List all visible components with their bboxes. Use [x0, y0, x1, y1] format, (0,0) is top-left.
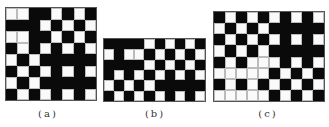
weave-grid-c [213, 11, 325, 102]
cell-a-r6-c1 [6, 66, 17, 78]
cell-b-r3-c4 [134, 60, 144, 70]
cell-b-r5-c5 [144, 80, 154, 90]
cell-c-r2-c9 [302, 23, 313, 34]
cell-c-r3-c10 [313, 34, 324, 45]
cell-c-r2-c4 [247, 23, 258, 34]
cell-b-r6-c9 [185, 91, 195, 101]
cell-a-r2-c2 [17, 20, 28, 32]
cell-b-r2-c7 [165, 49, 175, 59]
weave-grid-a [5, 7, 97, 101]
cell-b-r3-c2 [114, 60, 124, 70]
cell-b-r3-c6 [155, 60, 165, 70]
cell-c-r2-c7 [280, 23, 291, 34]
cell-a-r2-c8 [85, 20, 96, 32]
cell-a-r7-c3 [29, 77, 40, 89]
cell-a-r3-c7 [74, 31, 85, 43]
cell-a-r8-c2 [17, 89, 28, 101]
cell-a-r1-c1 [6, 8, 17, 20]
cell-b-r3-c7 [165, 60, 175, 70]
cell-b-r2-c3 [124, 49, 134, 59]
cell-b-r5-c9 [185, 80, 195, 90]
cell-c-r4-c1 [214, 45, 225, 56]
cell-c-r3-c9 [302, 34, 313, 45]
cell-b-r6-c1 [104, 91, 114, 101]
cell-b-r5-c7 [165, 80, 175, 90]
cell-a-r3-c1 [6, 31, 17, 43]
weave-grid-b [103, 38, 206, 102]
cell-b-r6-c4 [134, 91, 144, 101]
cell-b-r2-c6 [155, 49, 165, 59]
cell-c-r5-c7 [280, 57, 291, 68]
cell-b-r4-c5 [144, 70, 154, 80]
cell-a-r3-c2 [17, 31, 28, 43]
cell-b-r2-c5 [144, 49, 154, 59]
cell-c-r6-c7 [280, 68, 291, 79]
cell-b-r1-c4 [134, 39, 144, 49]
cell-c-r3-c4 [247, 34, 258, 45]
cell-a-r8-c5 [51, 89, 62, 101]
cell-a-r7-c6 [62, 77, 73, 89]
cell-a-r5-c8 [85, 54, 96, 66]
cell-c-r5-c1 [214, 57, 225, 68]
cell-c-r5-c8 [291, 57, 302, 68]
cell-c-r4-c8 [291, 45, 302, 56]
cell-a-r5-c5 [51, 54, 62, 66]
cell-c-r3-c6 [269, 34, 280, 45]
cell-c-r5-c2 [225, 57, 236, 68]
cell-a-r1-c8 [85, 8, 96, 20]
cell-b-r6-c7 [165, 91, 175, 101]
cell-a-r2-c4 [40, 20, 51, 32]
cell-a-r1-c3 [29, 8, 40, 20]
cell-a-r3-c8 [85, 31, 96, 43]
cell-a-r5-c2 [17, 54, 28, 66]
cell-c-r4-c9 [302, 45, 313, 56]
cell-b-r2-c1 [104, 49, 114, 59]
cell-b-r6-c6 [155, 91, 165, 101]
cell-a-r4-c7 [74, 43, 85, 55]
cell-c-r4-c6 [269, 45, 280, 56]
caption-b: (b) [135, 108, 175, 119]
cell-b-r4-c7 [165, 70, 175, 80]
cell-a-r6-c5 [51, 66, 62, 78]
cell-c-r8-c8 [291, 90, 302, 101]
cell-b-r4-c3 [124, 70, 134, 80]
cell-c-r8-c10 [313, 90, 324, 101]
cell-c-r7-c6 [269, 79, 280, 90]
cell-a-r4-c1 [6, 43, 17, 55]
cell-b-r5-c8 [175, 80, 185, 90]
cell-c-r6-c6 [269, 68, 280, 79]
cell-a-r8-c4 [40, 89, 51, 101]
cell-a-r1-c2 [17, 8, 28, 20]
cell-a-r5-c1 [6, 54, 17, 66]
cell-a-r8-c1 [6, 89, 17, 101]
cell-c-r3-c3 [236, 34, 247, 45]
cell-a-r5-c3 [29, 54, 40, 66]
cell-c-r8-c9 [302, 90, 313, 101]
cell-c-r1-c10 [313, 12, 324, 23]
cell-a-r4-c8 [85, 43, 96, 55]
cell-c-r1-c5 [258, 12, 269, 23]
cell-c-r7-c5 [258, 79, 269, 90]
cell-b-r1-c2 [114, 39, 124, 49]
cell-c-r8-c4 [247, 90, 258, 101]
cell-a-r8-c6 [62, 89, 73, 101]
cell-b-r5-c3 [124, 80, 134, 90]
cell-a-r1-c6 [62, 8, 73, 20]
cell-b-r1-c9 [185, 39, 195, 49]
cell-b-r1-c1 [104, 39, 114, 49]
cell-c-r4-c3 [236, 45, 247, 56]
cell-c-r1-c2 [225, 12, 236, 23]
cell-c-r5-c4 [247, 57, 258, 68]
cell-c-r1-c3 [236, 12, 247, 23]
cell-a-r6-c4 [40, 66, 51, 78]
cell-c-r6-c8 [291, 68, 302, 79]
cell-b-r4-c4 [134, 70, 144, 80]
cell-c-r6-c4 [247, 68, 258, 79]
cell-b-r1-c10 [195, 39, 205, 49]
cell-a-r1-c7 [74, 8, 85, 20]
cell-b-r5-c6 [155, 80, 165, 90]
cell-b-r4-c8 [175, 70, 185, 80]
cell-c-r2-c1 [214, 23, 225, 34]
cell-c-r8-c5 [258, 90, 269, 101]
cell-c-r4-c10 [313, 45, 324, 56]
